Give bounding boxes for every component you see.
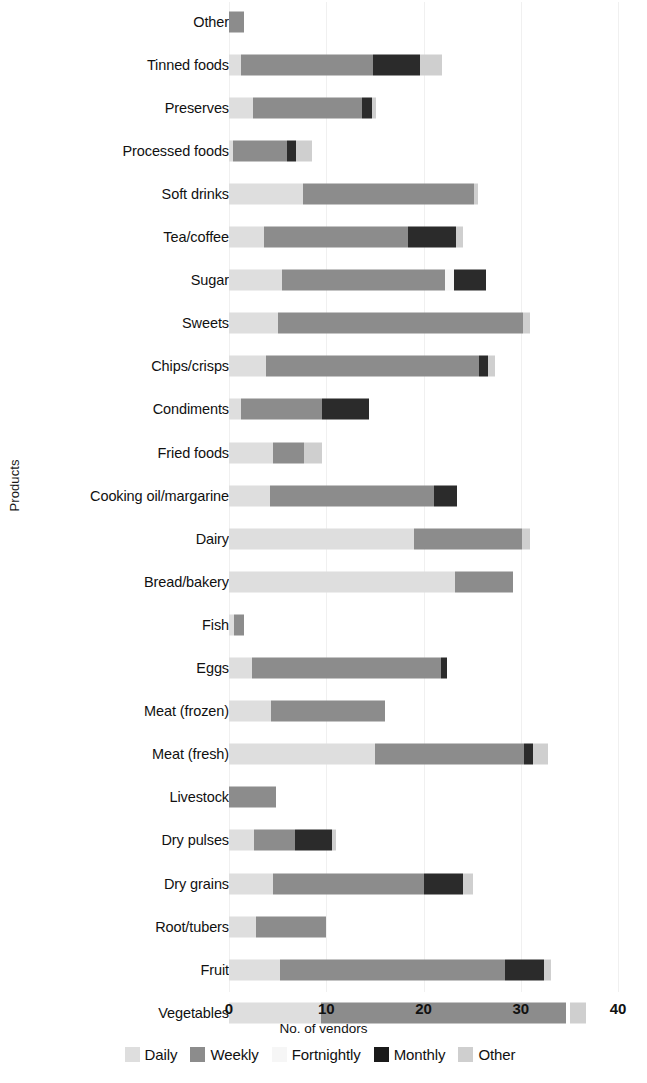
bar-segment-weekly[interactable] — [375, 744, 524, 765]
bar-segment-monthly[interactable] — [295, 830, 332, 851]
legend-swatch-icon — [374, 1047, 389, 1062]
stacked-bar[interactable] — [229, 614, 244, 635]
legend-item-fortnightly[interactable]: Fortnightly — [272, 1046, 361, 1063]
stacked-bar[interactable] — [229, 873, 473, 894]
bar-segment-daily[interactable] — [229, 873, 273, 894]
stacked-bar[interactable] — [229, 183, 478, 204]
bar-segment-weekly[interactable] — [241, 399, 323, 420]
bar-segment-weekly[interactable] — [252, 658, 441, 679]
bar-segment-weekly[interactable] — [270, 485, 434, 506]
bar-segment-monthly[interactable] — [434, 485, 456, 506]
bar-segment-weekly[interactable] — [229, 11, 244, 32]
bar-segment-weekly[interactable] — [273, 873, 425, 894]
stacked-bar[interactable] — [229, 227, 463, 248]
bar-segment-monthly[interactable] — [424, 873, 463, 894]
legend-item-weekly[interactable]: Weekly — [190, 1046, 258, 1063]
bar-segment-monthly[interactable] — [441, 658, 447, 679]
stacked-bar[interactable] — [229, 356, 495, 377]
bar-segment-daily[interactable] — [229, 830, 254, 851]
bar-segment-monthly[interactable] — [362, 97, 372, 118]
bar-segment-daily[interactable] — [229, 916, 256, 937]
bar-segment-daily[interactable] — [229, 183, 303, 204]
bar-segment-monthly[interactable] — [408, 227, 456, 248]
bar-segment-other[interactable] — [296, 140, 312, 161]
bar-segment-weekly[interactable] — [414, 528, 522, 549]
bar-segment-weekly[interactable] — [280, 959, 506, 980]
bar-segment-daily[interactable] — [229, 313, 278, 334]
bar-segment-other[interactable] — [456, 227, 464, 248]
bar-segment-other[interactable] — [488, 356, 496, 377]
bar-segment-other[interactable] — [463, 873, 473, 894]
bar-segment-other[interactable] — [544, 959, 551, 980]
bar-segment-daily[interactable] — [229, 701, 271, 722]
bar-segment-daily[interactable] — [229, 485, 270, 506]
bar-segment-weekly[interactable] — [254, 830, 295, 851]
stacked-bar[interactable] — [229, 528, 530, 549]
bar-segment-daily[interactable] — [229, 658, 252, 679]
bar-segment-monthly[interactable] — [505, 959, 544, 980]
stacked-bar[interactable] — [229, 916, 326, 937]
bar-segment-other[interactable] — [522, 528, 531, 549]
legend-item-other[interactable]: Other — [458, 1046, 515, 1063]
bar-segment-weekly[interactable] — [455, 571, 513, 592]
bar-segment-other[interactable] — [332, 830, 336, 851]
bar-segment-daily[interactable] — [229, 528, 414, 549]
stacked-bar[interactable] — [229, 270, 486, 291]
bar-segment-monthly[interactable] — [322, 399, 369, 420]
bar-segment-daily[interactable] — [229, 270, 282, 291]
bar-segment-weekly[interactable] — [234, 614, 244, 635]
bar-segment-weekly[interactable] — [264, 227, 408, 248]
legend-item-monthly[interactable]: Monthly — [374, 1046, 446, 1063]
stacked-bar[interactable] — [229, 485, 457, 506]
bar-segment-other[interactable] — [372, 97, 376, 118]
bar-segment-monthly[interactable] — [524, 744, 534, 765]
stacked-bar[interactable] — [229, 97, 376, 118]
bar-segment-monthly[interactable] — [454, 270, 486, 291]
bar-segment-daily[interactable] — [229, 97, 253, 118]
stacked-bar[interactable] — [229, 744, 548, 765]
bar-segment-daily[interactable] — [229, 959, 280, 980]
bar-segment-weekly[interactable] — [282, 270, 444, 291]
bar-segment-daily[interactable] — [229, 227, 264, 248]
legend-item-daily[interactable]: Daily — [125, 1046, 178, 1063]
stacked-bar[interactable] — [229, 787, 276, 808]
y-axis-tick-label: Bread/bakery — [144, 574, 229, 590]
stacked-bar[interactable] — [229, 959, 551, 980]
stacked-bar[interactable] — [229, 442, 322, 463]
bar-segment-weekly[interactable] — [253, 97, 362, 118]
bar-segment-daily[interactable] — [229, 744, 375, 765]
stacked-bar[interactable] — [229, 830, 336, 851]
stacked-bar[interactable] — [229, 140, 312, 161]
bar-segment-weekly[interactable] — [256, 916, 326, 937]
bar-segment-fortnightly[interactable] — [445, 270, 454, 291]
bar-segment-monthly[interactable] — [373, 54, 420, 75]
stacked-bar[interactable] — [229, 54, 442, 75]
bar-segment-weekly[interactable] — [303, 183, 474, 204]
bar-segment-weekly[interactable] — [229, 787, 276, 808]
stacked-bar[interactable] — [229, 701, 385, 722]
bar-segment-weekly[interactable] — [273, 442, 304, 463]
bar-segment-weekly[interactable] — [241, 54, 373, 75]
bar-segment-other[interactable] — [533, 744, 548, 765]
bar-segment-weekly[interactable] — [233, 140, 287, 161]
stacked-bar[interactable] — [229, 313, 530, 334]
bar-segment-daily[interactable] — [229, 356, 266, 377]
bar-segment-weekly[interactable] — [271, 701, 385, 722]
bar-segment-other[interactable] — [420, 54, 442, 75]
bar-segment-daily[interactable] — [229, 399, 241, 420]
bar-segment-daily[interactable] — [229, 442, 273, 463]
stacked-bar[interactable] — [229, 658, 447, 679]
bar-segment-weekly[interactable] — [266, 356, 479, 377]
bar-segment-daily[interactable] — [229, 54, 241, 75]
stacked-bar[interactable] — [229, 399, 369, 420]
chart-legend: DailyWeeklyFortnightlyMonthlyOther — [0, 1046, 647, 1063]
stacked-bar[interactable] — [229, 11, 244, 32]
bar-segment-daily[interactable] — [229, 571, 455, 592]
bar-segment-other[interactable] — [523, 313, 531, 334]
bar-segment-weekly[interactable] — [278, 313, 523, 334]
bar-segment-monthly[interactable] — [479, 356, 488, 377]
bar-segment-other[interactable] — [304, 442, 322, 463]
bar-segment-other[interactable] — [474, 183, 478, 204]
stacked-bar[interactable] — [229, 571, 513, 592]
bar-segment-monthly[interactable] — [287, 140, 296, 161]
